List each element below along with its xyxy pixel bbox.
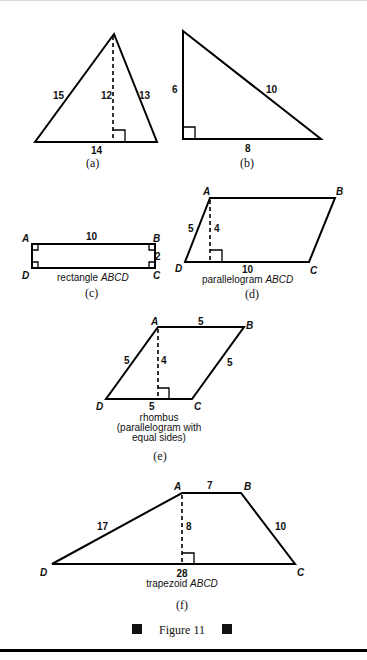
sub-label-c: (c) — [85, 286, 98, 300]
right-angle-icon — [158, 388, 169, 399]
black-square-icon — [222, 624, 232, 634]
figure-b-right-triangle: 6 10 8 (b) — [172, 31, 321, 170]
sub-label-a: (a) — [86, 156, 99, 170]
vertex-e-C: C — [194, 401, 202, 412]
vertex-d-D: D — [175, 263, 182, 274]
sub-label-d: (d) — [245, 287, 259, 301]
label-d-side: 5 — [188, 223, 194, 234]
vertex-e-A: A — [150, 316, 158, 327]
vertex-c-C: C — [153, 270, 161, 281]
label-a-side-right: 13 — [139, 90, 151, 101]
vertex-f-D: D — [40, 567, 47, 578]
label-f-side-left: 17 — [97, 521, 109, 532]
parallelogram-shape — [185, 198, 335, 262]
caption-e-line3: equal sides) — [132, 432, 186, 443]
vertex-f-C: C — [297, 567, 305, 578]
label-e-side-top: 5 — [198, 316, 204, 327]
figure-d-parallelogram: A B C D 5 4 10 parallelogram ABCD (d) — [175, 186, 343, 301]
vertex-c-B: B — [153, 233, 160, 244]
figure-f-trapezoid: A B C D 7 17 8 10 28 trapezoid ABCD (f) — [40, 480, 305, 612]
label-f-side-right: 10 — [275, 521, 287, 532]
right-angle-icon — [113, 130, 125, 142]
vertex-c-A: A — [21, 233, 29, 244]
right-angle-icon — [182, 553, 194, 564]
bottom-rule — [0, 649, 367, 652]
vertex-f-B: B — [244, 481, 251, 492]
sub-label-f: (f) — [176, 598, 188, 612]
label-b-leg-vertical: 6 — [172, 84, 178, 95]
label-a-side-left: 15 — [53, 90, 65, 101]
black-square-icon — [132, 624, 142, 634]
trapezoid-shape — [52, 493, 295, 564]
figure-a-triangle: 15 12 13 14 (a) — [35, 34, 157, 170]
caption-f: trapezoid ABCD — [146, 578, 218, 589]
label-e-height: 4 — [161, 355, 167, 366]
vertex-f-A: A — [173, 481, 181, 492]
label-d-height: 4 — [214, 223, 220, 234]
label-f-top: 7 — [207, 480, 213, 491]
vertex-d-B: B — [336, 186, 343, 197]
sub-label-e: (e) — [153, 449, 166, 463]
label-e-side-left: 5 — [124, 355, 130, 366]
figure-c-rectangle: A B C D 10 2 rectangle ABCD (c) — [21, 231, 161, 300]
figure-caption-text: Figure 11 — [159, 623, 205, 637]
label-a-height: 12 — [101, 90, 113, 101]
label-b-hypotenuse: 10 — [266, 84, 278, 95]
label-b-leg-horizontal: 8 — [245, 143, 251, 154]
figure-caption: Figure 11 — [132, 623, 232, 637]
sub-label-b: (b) — [240, 156, 254, 170]
label-a-base: 14 — [91, 145, 103, 156]
vertex-c-D: D — [22, 270, 29, 281]
vertex-e-D: D — [96, 401, 103, 412]
figure-11-diagram: 15 12 13 14 (a) 6 10 8 (b) A B C D 10 2 … — [0, 0, 367, 660]
label-c-length: 10 — [86, 231, 98, 242]
vertex-d-A: A — [202, 186, 210, 197]
right-angle-icon — [210, 250, 222, 262]
rectangle-shape — [32, 244, 155, 268]
caption-c: rectangle ABCD — [57, 272, 129, 283]
label-c-width: 2 — [155, 251, 161, 262]
vertex-e-B: B — [246, 320, 253, 331]
figure-e-rhombus: A B C D 5 5 4 5 5 rhombus (parallelogram… — [96, 316, 253, 463]
caption-d: parallelogram ABCD — [202, 274, 293, 285]
triangle-b-shape — [183, 31, 321, 139]
right-angle-icon — [183, 127, 195, 139]
label-e-base: 5 — [149, 401, 155, 412]
triangle-a-shape — [35, 34, 157, 142]
label-f-height: 8 — [186, 521, 192, 532]
label-e-side-right: 5 — [227, 357, 233, 368]
vertex-d-C: C — [310, 265, 318, 276]
